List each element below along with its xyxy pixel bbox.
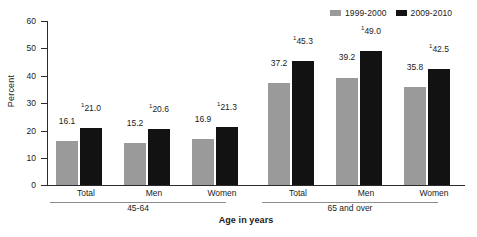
x-category-label-men-45-64: Men [124, 189, 184, 198]
bar-value-label: 142.5 [422, 45, 456, 54]
bar-value-text: 39.2 [339, 52, 356, 62]
y-tick-60 [41, 21, 48, 22]
x-category-label-women-45-64: Women [192, 189, 252, 198]
bar-value-label: 16.1 [50, 117, 84, 126]
bar-2009-2010-total-45-64 [80, 128, 102, 185]
y-tick-label-20: 20 [6, 127, 36, 136]
group-bracket-label-65-over: 65 and over [290, 204, 410, 213]
bar-value-label: 15.2 [118, 119, 152, 128]
bar-1999-2000-total-65-over [268, 83, 290, 185]
bar-chart: 1999-2000 2009-2010 Percent 60 50 40 30 … [0, 0, 477, 237]
bar-value-label: 35.8 [398, 63, 432, 72]
y-tick-label-40: 40 [6, 72, 36, 81]
y-tick-50 [41, 48, 48, 49]
bar-value-text: 15.2 [127, 118, 144, 128]
bar-value-text: 42.5 [432, 44, 449, 54]
y-tick-20 [41, 131, 48, 132]
x-axis-title: Age in years [186, 215, 306, 225]
bar-value-label: 37.2 [262, 59, 296, 68]
y-tick-label-0: 0 [6, 181, 36, 190]
bar-value-text: 21.3 [220, 102, 237, 112]
bar-value-label: 39.2 [330, 53, 364, 62]
bar-value-label: 16.9 [186, 115, 220, 124]
bar-1999-2000-women-65-over [404, 87, 426, 185]
group-bracket-label-45-64: 45-64 [78, 204, 198, 213]
bar-value-label: 120.6 [142, 105, 176, 114]
bar-2009-2010-total-65-over [292, 61, 314, 185]
x-axis-line [47, 185, 465, 186]
bar-value-text: 45.3 [296, 36, 313, 46]
legend-swatch-icon [330, 10, 341, 16]
bar-2009-2010-women-45-64 [216, 127, 238, 185]
legend-item-2009-2010: 2009-2010 [396, 8, 453, 18]
x-category-label-total-65-over: Total [268, 189, 328, 198]
y-axis-title: Percent [6, 61, 16, 121]
plot-area: 16.1 121.0 15.2 120.6 16.9 121.3 37.2 14… [48, 21, 465, 185]
y-tick-label-30: 30 [6, 99, 36, 108]
bar-1999-2000-women-45-64 [192, 139, 214, 185]
bar-1999-2000-men-65-over [336, 78, 358, 185]
legend-swatch-icon [396, 10, 407, 16]
legend-label: 2009-2010 [411, 8, 453, 18]
bar-value-label: 149.0 [354, 27, 388, 36]
bar-value-text: 35.8 [407, 62, 424, 72]
y-tick-10 [41, 158, 48, 159]
bar-value-label: 121.3 [210, 103, 244, 112]
bar-value-label: 145.3 [286, 37, 320, 46]
bar-value-text: 49.0 [364, 26, 381, 36]
x-category-label-women-65-over: Women [404, 189, 464, 198]
y-tick-label-10: 10 [6, 154, 36, 163]
bar-value-text: 20.6 [152, 104, 169, 114]
legend-label: 1999-2000 [345, 8, 387, 18]
bar-value-text: 21.0 [84, 103, 101, 113]
x-category-label-men-65-over: Men [336, 189, 396, 198]
y-tick-30 [41, 103, 48, 104]
bar-value-text: 16.1 [59, 116, 76, 126]
chart-legend: 1999-2000 2009-2010 [330, 8, 452, 18]
bar-value-label: 121.0 [74, 104, 108, 113]
y-tick-0 [41, 185, 48, 186]
bar-value-text: 37.2 [271, 58, 288, 68]
bar-1999-2000-total-45-64 [56, 141, 78, 185]
bar-2009-2010-men-45-64 [148, 129, 170, 185]
legend-item-1999-2000: 1999-2000 [330, 8, 387, 18]
y-tick-40 [41, 76, 48, 77]
bar-2009-2010-men-65-over [360, 51, 382, 185]
y-tick-label-50: 50 [6, 44, 36, 53]
x-category-label-total-45-64: Total [56, 189, 116, 198]
bar-value-text: 16.9 [195, 114, 212, 124]
y-tick-label-60: 60 [6, 17, 36, 26]
bar-1999-2000-men-45-64 [124, 143, 146, 185]
bar-2009-2010-women-65-over [428, 69, 450, 185]
